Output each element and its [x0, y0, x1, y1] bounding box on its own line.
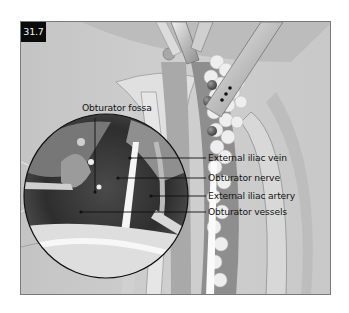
label-obturator-vessels: Obturator vessels [208, 206, 287, 217]
figure-number-badge: 31.7 [21, 22, 46, 42]
label-external-iliac-vein: External iliac vein [208, 152, 287, 163]
anatomical-illustration-figure: 31.7 Obturator fossa External iliac vein… [20, 21, 331, 295]
label-obturator-fossa: Obturator fossa [82, 102, 152, 113]
label-external-iliac-artery: External iliac artery [208, 190, 295, 201]
label-obturator-nerve: Obturator nerve [208, 172, 280, 183]
